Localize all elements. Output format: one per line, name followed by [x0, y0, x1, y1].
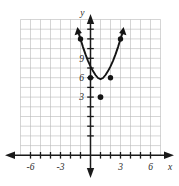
- data-point: [108, 75, 113, 80]
- data-point: [118, 36, 123, 41]
- y-axis-arrow-up: [87, 14, 94, 24]
- x-axis: [5, 152, 174, 159]
- data-point: [78, 36, 83, 41]
- curve-arrow-left: [75, 27, 82, 35]
- x-tick-label-neg3: -3: [57, 162, 65, 172]
- data-point-vertex: [98, 94, 104, 100]
- y-axis-arrow-down: [87, 168, 94, 178]
- y-axis-label: y: [79, 8, 85, 18]
- x-axis-arrow-right: [164, 152, 174, 159]
- data-point: [88, 75, 93, 80]
- x-tick-label-3: 3: [117, 162, 123, 172]
- x-axis-arrow-left: [5, 152, 15, 159]
- axis-names: y x: [79, 8, 173, 173]
- x-axis-label: x: [167, 162, 173, 172]
- y-tick-label-6: 6: [79, 73, 84, 83]
- x-tick-label-6: 6: [148, 162, 153, 172]
- y-axis: [87, 14, 94, 178]
- y-tick-label-9: 9: [79, 54, 84, 64]
- graph-figure: 9 6 3 -6 -3 3 6 y x: [0, 0, 179, 186]
- curve-arrow-right: [119, 27, 126, 35]
- x-tick-label-neg6: -6: [27, 162, 35, 172]
- y-tick-label-3: 3: [78, 92, 84, 102]
- parabola-plot: 9 6 3 -6 -3 3 6 y x: [0, 0, 179, 186]
